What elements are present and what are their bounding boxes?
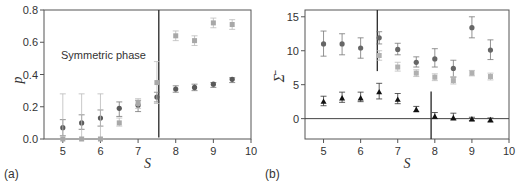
x-tick-label: 9	[210, 145, 216, 157]
series-black-triangles	[321, 83, 494, 122]
panel-a-label: (a)	[4, 167, 19, 181]
data-point	[79, 137, 84, 142]
data-point	[211, 20, 216, 25]
data-point	[377, 53, 382, 58]
data-point	[230, 22, 235, 27]
data-point	[230, 77, 235, 82]
data-point	[192, 85, 197, 90]
data-point	[469, 71, 474, 76]
y-tick-label: 0.0	[23, 133, 38, 145]
series-dark	[60, 77, 235, 136]
x-tick-label: 10	[503, 145, 515, 157]
data-point	[358, 95, 364, 100]
series-light	[60, 18, 235, 141]
y-axis-label: p	[10, 77, 25, 85]
data-point	[321, 41, 326, 46]
data-point	[413, 107, 419, 112]
panel-b-chart: 5678910051015SΣ̄	[272, 10, 515, 171]
data-point	[469, 25, 474, 30]
x-tick-label: 10	[245, 145, 257, 157]
data-point	[60, 137, 65, 142]
panel-a-chart: 56789100.00.20.40.60.8SpSymmetric phase	[10, 4, 257, 171]
x-tick-label: 5	[60, 145, 66, 157]
y-tick-label: 0.2	[23, 101, 38, 113]
data-point	[117, 120, 122, 125]
panel-b-label: (b)	[265, 167, 280, 181]
data-point	[376, 89, 382, 94]
y-tick-label: 5	[293, 79, 299, 91]
y-tick-label: 10	[287, 45, 299, 57]
x-tick-label: 6	[358, 145, 364, 157]
plot-frame	[305, 10, 509, 139]
x-tick-label: 7	[395, 145, 401, 157]
annotation: Symmetric phase	[61, 49, 146, 61]
x-tick-label: 8	[432, 145, 438, 157]
data-point	[154, 80, 159, 85]
data-point	[98, 137, 103, 142]
series-dark-circles	[321, 17, 494, 77]
x-tick-label: 5	[320, 145, 326, 157]
y-tick-label: 15	[287, 11, 299, 23]
data-point	[136, 101, 141, 106]
data-point	[192, 38, 197, 43]
data-point	[432, 75, 437, 80]
data-point	[450, 115, 456, 120]
data-point	[432, 56, 437, 61]
data-point	[451, 66, 456, 71]
data-point	[377, 35, 382, 40]
y-tick-label: 0	[293, 113, 299, 125]
x-axis-label: S	[404, 156, 411, 171]
y-tick-label: 0.6	[23, 36, 38, 48]
data-point	[451, 78, 456, 83]
data-point	[173, 33, 178, 38]
data-point	[395, 96, 401, 101]
x-tick-label: 8	[173, 145, 179, 157]
data-point	[414, 60, 419, 65]
x-tick-label: 7	[135, 145, 141, 157]
data-point	[432, 113, 438, 118]
data-point	[488, 74, 493, 79]
figure: 56789100.00.20.40.60.8SpSymmetric phase …	[0, 0, 524, 186]
data-point	[414, 71, 419, 76]
x-tick-label: 6	[97, 145, 103, 157]
data-point	[173, 86, 178, 91]
y-tick-label: 0.8	[23, 4, 38, 16]
data-point	[339, 95, 345, 100]
x-axis-label: S	[144, 156, 151, 171]
y-axis-label: Σ̄	[272, 70, 287, 83]
data-point	[358, 45, 363, 50]
data-point	[117, 106, 122, 111]
data-point	[488, 47, 493, 52]
x-tick-label: 9	[469, 145, 475, 157]
data-point	[321, 98, 327, 103]
plot-frame	[44, 10, 251, 139]
data-point	[211, 82, 216, 87]
data-point	[339, 41, 344, 46]
data-point	[395, 65, 400, 70]
data-point	[395, 47, 400, 52]
